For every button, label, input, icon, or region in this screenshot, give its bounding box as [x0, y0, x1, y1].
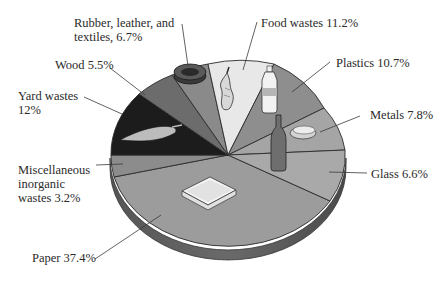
label-plastics: Plastics 10.7%	[336, 56, 410, 70]
label-wood: Wood 5.5%	[55, 58, 114, 72]
label-yard-line1: Yard wastes	[18, 89, 78, 103]
label-rubber-leather-textiles: Rubber, leather, and textiles, 6.7%	[74, 16, 174, 44]
label-misc-inorganic: Miscellaneous inorganic wastes 3.2%	[18, 163, 90, 205]
label-yard-wastes: Yard wastes 12%	[18, 89, 78, 117]
label-misc-line1: Miscellaneous	[18, 163, 90, 177]
pie-chart	[0, 0, 448, 285]
label-rubber-line1: Rubber, leather, and	[74, 16, 174, 30]
label-food-wastes: Food wastes 11.2%	[261, 16, 358, 30]
tire-icon	[174, 64, 206, 84]
label-misc-line2: inorganic	[18, 177, 90, 191]
label-metals: Metals 7.8%	[370, 108, 433, 122]
label-rubber-line2: textiles, 6.7%	[74, 30, 174, 44]
label-glass: Glass 6.6%	[371, 167, 428, 181]
label-yard-line2: 12%	[18, 103, 78, 117]
label-paper: Paper 37.4%	[32, 251, 96, 265]
plastic-bottle-icon	[262, 66, 277, 113]
label-misc-line3: wastes 3.2%	[18, 191, 90, 205]
